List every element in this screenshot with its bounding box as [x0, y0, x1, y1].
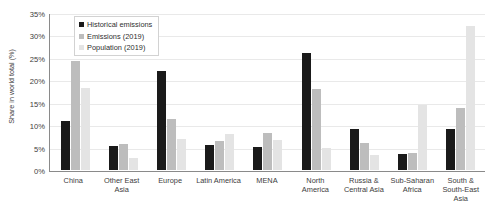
- bar: [263, 133, 272, 170]
- bar-group: [437, 14, 485, 170]
- bar-group: [340, 14, 388, 170]
- bar: [360, 143, 369, 170]
- y-axis-tick-label: 30%: [30, 32, 45, 41]
- y-axis-tick-labels: 0%5%10%15%20%25%30%35%: [20, 14, 48, 172]
- bar: [157, 71, 166, 170]
- legend-label: Emissions (2019): [87, 32, 144, 41]
- bar: [71, 61, 80, 170]
- legend-label: Historical emissions: [87, 20, 152, 29]
- bar-group: [292, 14, 340, 170]
- bar: [177, 139, 186, 170]
- bar: [119, 144, 128, 170]
- x-axis-category-label: Latin America: [194, 176, 242, 214]
- bar: [456, 108, 465, 170]
- y-axis-title: Share in world total (%): [2, 0, 20, 172]
- bar: [398, 154, 407, 170]
- bar: [215, 141, 224, 170]
- legend-label: Population (2019): [87, 43, 145, 52]
- bar: [302, 53, 311, 170]
- bar-chart: Share in world total (%) 0%5%10%15%20%25…: [0, 0, 489, 214]
- chart-legend: Historical emissionsEmissions (2019)Popu…: [74, 16, 159, 56]
- bar: [350, 129, 359, 170]
- bar: [61, 121, 70, 170]
- bar-group: [389, 14, 437, 170]
- y-axis-tick-label: 15%: [30, 99, 45, 108]
- bar-group: [196, 14, 244, 170]
- legend-swatch-icon: [79, 45, 84, 50]
- bar-group: [244, 14, 292, 170]
- x-axis-category-label: Europe: [146, 176, 194, 214]
- y-axis-tick-label: 25%: [30, 54, 45, 63]
- legend-item[interactable]: Population (2019): [79, 43, 152, 52]
- x-axis-category-label: MENA: [243, 176, 291, 214]
- legend-swatch-icon: [79, 22, 84, 27]
- y-axis-title-text: Share in world total (%): [7, 49, 16, 124]
- bar: [408, 153, 417, 170]
- x-axis-category-label: Other East Asia: [97, 176, 145, 214]
- x-axis-category-label: China: [49, 176, 97, 214]
- bar: [446, 129, 455, 170]
- legend-swatch-icon: [79, 34, 84, 39]
- bar: [81, 88, 90, 170]
- bar: [225, 134, 234, 170]
- bar: [322, 148, 331, 170]
- bar: [466, 26, 475, 170]
- bar: [418, 105, 427, 170]
- bar: [273, 140, 282, 170]
- y-axis-tick-label: 5%: [34, 144, 45, 153]
- x-axis-category-label: South & South-East Asia: [437, 176, 485, 214]
- x-axis-category-labels: ChinaOther East AsiaEuropeLatin AmericaM…: [49, 176, 485, 214]
- y-axis-tick-label: 20%: [30, 77, 45, 86]
- bar: [253, 147, 262, 170]
- bar: [312, 89, 321, 170]
- bar: [129, 158, 138, 170]
- bar: [109, 146, 118, 170]
- x-axis-category-label: Russia & Central Asia: [340, 176, 388, 214]
- y-axis-tick-label: 10%: [30, 122, 45, 131]
- x-axis-category-label: North America: [291, 176, 339, 214]
- y-axis-tick-label: 35%: [30, 10, 45, 19]
- bar: [370, 155, 379, 170]
- bar: [205, 145, 214, 170]
- bar: [167, 119, 176, 170]
- legend-item[interactable]: Historical emissions: [79, 20, 152, 29]
- legend-item[interactable]: Emissions (2019): [79, 32, 152, 41]
- y-axis-tick-label: 0%: [34, 167, 45, 176]
- x-axis-category-label: Sub-Saharan Africa: [388, 176, 436, 214]
